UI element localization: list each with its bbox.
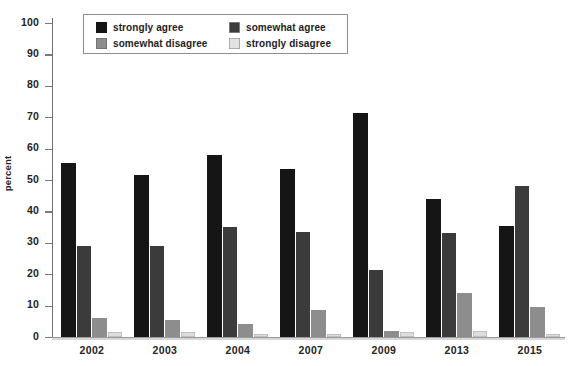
y-tick-label: 20 — [27, 267, 39, 279]
bar-2009-somewhat-disagree — [384, 331, 399, 337]
bar-2015-strongly-disagree — [546, 334, 561, 337]
legend-swatch-icon — [229, 38, 240, 49]
y-tick-0: 0 — [0, 337, 52, 338]
y-tick-60: 60 — [0, 149, 52, 150]
x-axis-label-2003: 2003 — [130, 344, 200, 356]
bar-group-2002 — [61, 23, 122, 337]
bar-group-2009 — [353, 23, 414, 337]
bar-group-2013 — [426, 23, 487, 337]
y-tick-label: 10 — [27, 298, 39, 310]
y-tick-40: 40 — [0, 211, 52, 212]
y-tick-mark — [45, 211, 52, 212]
y-tick-label: 70 — [27, 110, 39, 122]
bar-2003-somewhat-agree — [150, 246, 165, 337]
y-tick-70: 70 — [0, 117, 52, 118]
y-tick-mark — [45, 337, 52, 338]
bar-2003-strongly-agree — [134, 175, 149, 337]
x-axis-baseline-shadow — [52, 338, 565, 339]
y-tick-mark — [45, 117, 52, 118]
chart-legend: strongly agreesomewhat agreesomewhat dis… — [83, 14, 348, 54]
bar-chart: percent 0102030405060708090100 200220032… — [0, 0, 573, 366]
x-axis-label-2009: 2009 — [349, 344, 419, 356]
y-tick-mark — [45, 149, 52, 150]
bar-2003-strongly-disagree — [181, 332, 196, 337]
bar-2007-somewhat-agree — [296, 232, 311, 337]
y-tick-80: 80 — [0, 86, 52, 87]
y-tick-20: 20 — [0, 274, 52, 275]
bar-2007-strongly-disagree — [327, 334, 342, 337]
bar-2013-strongly-agree — [426, 199, 441, 337]
legend-label: somewhat agree — [246, 21, 326, 34]
y-tick-mark — [45, 86, 52, 87]
legend-swatch-icon — [229, 22, 240, 33]
chart-title — [70, 0, 540, 2]
y-tick-mark — [45, 243, 52, 244]
bar-group-2003 — [134, 23, 195, 337]
x-axis-label-2015: 2015 — [495, 344, 565, 356]
bar-2013-strongly-disagree — [473, 331, 488, 337]
bar-group-2015 — [499, 23, 560, 337]
bar-2002-somewhat-agree — [77, 246, 92, 337]
bar-2009-strongly-agree — [353, 113, 368, 338]
y-tick-label: 30 — [27, 235, 39, 247]
y-tick-50: 50 — [0, 180, 52, 181]
y-tick-mark — [45, 180, 52, 181]
y-tick-10: 10 — [0, 306, 52, 307]
bar-2004-somewhat-agree — [223, 227, 238, 337]
bar-2013-somewhat-disagree — [457, 293, 472, 337]
plot-area — [53, 23, 564, 337]
x-axis-label-2007: 2007 — [276, 344, 346, 356]
legend-label: strongly agree — [113, 21, 183, 34]
legend-label: somewhat disagree — [113, 37, 208, 50]
legend-swatch-icon — [96, 38, 107, 49]
y-tick-30: 30 — [0, 243, 52, 244]
y-tick-mark — [45, 23, 52, 24]
bar-2003-somewhat-disagree — [165, 320, 180, 337]
y-tick-label: 100 — [21, 16, 39, 28]
y-tick-label: 80 — [27, 78, 39, 90]
bar-2015-somewhat-agree — [515, 186, 530, 337]
y-tick-label: 90 — [27, 47, 39, 59]
y-tick-label: 0 — [33, 330, 39, 342]
bar-group-2004 — [207, 23, 268, 337]
bar-2007-strongly-agree — [280, 169, 295, 337]
y-tick-mark — [45, 54, 52, 55]
legend-swatch-icon — [96, 22, 107, 33]
y-axis-label: percent — [2, 144, 13, 204]
bar-group-2007 — [280, 23, 341, 337]
bar-2009-strongly-disagree — [400, 332, 415, 337]
y-tick-label: 40 — [27, 204, 39, 216]
bar-2015-somewhat-disagree — [530, 307, 545, 337]
y-tick-label: 60 — [27, 141, 39, 153]
y-tick-100: 100 — [0, 23, 52, 24]
x-axis-label-2002: 2002 — [57, 344, 127, 356]
bar-2002-somewhat-disagree — [92, 318, 107, 337]
bar-2004-strongly-agree — [207, 155, 222, 337]
y-tick-mark — [45, 274, 52, 275]
legend-label: strongly disagree — [246, 37, 331, 50]
x-axis-label-2013: 2013 — [422, 344, 492, 356]
bar-2002-strongly-disagree — [108, 332, 123, 337]
bar-2004-somewhat-disagree — [238, 324, 253, 337]
bar-2013-somewhat-agree — [442, 233, 457, 337]
bar-2007-somewhat-disagree — [311, 310, 326, 337]
bar-2015-strongly-agree — [499, 226, 514, 337]
bar-2004-strongly-disagree — [254, 334, 269, 337]
x-axis-label-2004: 2004 — [203, 344, 273, 356]
y-tick-label: 50 — [27, 173, 39, 185]
y-tick-90: 90 — [0, 54, 52, 55]
bar-2009-somewhat-agree — [369, 270, 384, 338]
y-tick-mark — [45, 306, 52, 307]
bar-2002-strongly-agree — [61, 163, 76, 337]
